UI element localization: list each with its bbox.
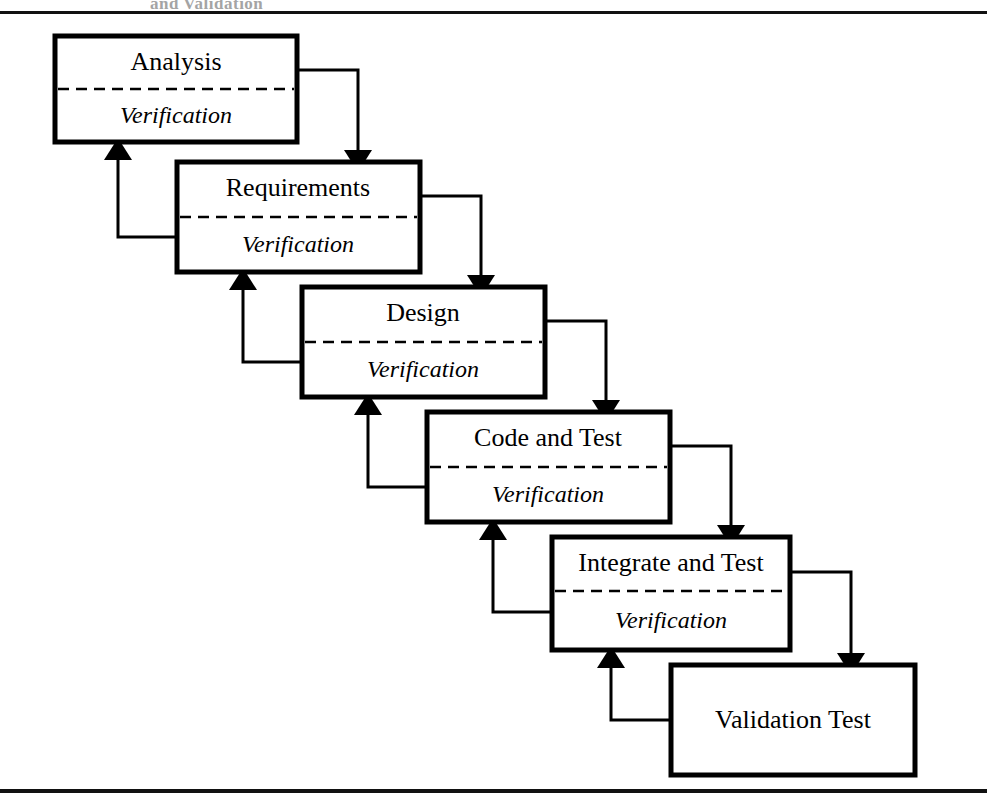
feedback-flow-code-and-test-to-design <box>354 393 427 487</box>
feedback-flow-requirements-to-analysis <box>104 138 177 237</box>
box-subtitle-code-and-test: Verification <box>492 481 604 507</box>
box-subtitle-analysis: Verification <box>120 102 232 128</box>
box-requirements[interactable]: Requirements Verification <box>177 162 420 272</box>
page-canvas: and Validation <box>0 0 987 805</box>
footer-rule-bottom <box>0 789 987 793</box>
forward-flow-design-to-code-and-test <box>545 321 620 422</box>
feedback-flow-design-to-requirements <box>229 268 302 362</box>
box-design[interactable]: Design Verification <box>302 287 545 397</box>
box-subtitle-requirements: Verification <box>242 231 354 257</box>
box-validation-test[interactable]: Validation Test <box>671 665 915 775</box>
box-subtitle-integrate-and-test: Verification <box>615 607 727 633</box>
box-title-integrate-and-test: Integrate and Test <box>578 548 764 577</box>
box-title-validation-test: Validation Test <box>715 705 872 734</box>
forward-flow-integrate-and-test-to-validation-test <box>790 572 865 675</box>
forward-flow-analysis-to-requirements <box>297 70 372 172</box>
forward-flow-requirements-to-design <box>420 196 495 297</box>
box-title-design: Design <box>386 298 460 327</box>
waterfall-diagram: Analysis Verification Requirements Verif… <box>0 0 987 805</box>
box-subtitle-design: Verification <box>367 356 479 382</box>
feedback-flow-validation-test-to-integrate-and-test <box>597 646 671 720</box>
box-code-and-test[interactable]: Code and Test Verification <box>427 412 670 522</box>
box-analysis[interactable]: Analysis Verification <box>55 36 297 142</box>
box-integrate-and-test[interactable]: Integrate and Test Verification <box>552 537 790 650</box>
forward-flow-code-and-test-to-integrate-and-test <box>670 446 745 547</box>
feedback-flow-integrate-and-test-to-code-and-test <box>479 518 552 612</box>
box-title-code-and-test: Code and Test <box>474 423 623 452</box>
box-title-analysis: Analysis <box>131 47 222 76</box>
box-title-requirements: Requirements <box>226 173 370 202</box>
